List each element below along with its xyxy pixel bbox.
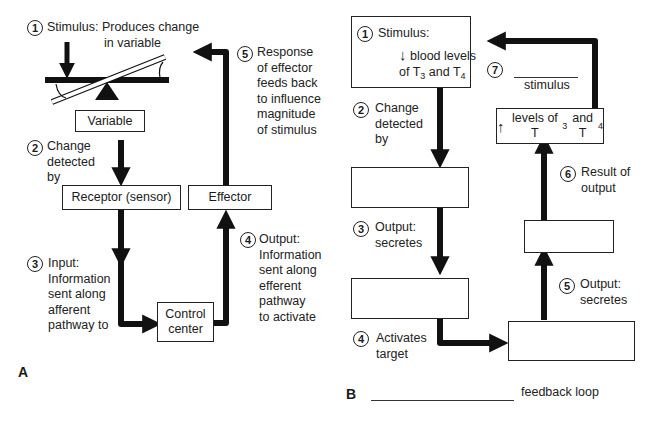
step-1-badge: 1 (27, 20, 43, 36)
step-b4-text: Activatestarget (376, 331, 427, 362)
step-b2-badge: 2 (353, 102, 369, 118)
feedback-type-blank[interactable] (371, 386, 514, 401)
step-b7-text: stimulus (524, 78, 570, 94)
blank-box-1[interactable] (351, 167, 469, 208)
stimulus-hormones: of T3 and T4 (399, 65, 466, 85)
step-b2-text: Changedetectedby (375, 101, 423, 148)
panel-b-label: B (346, 386, 356, 402)
step-b3-badge: 3 (353, 221, 369, 237)
step-b4-badge: 4 (353, 331, 369, 347)
step-4-text: Output:Informationsent alongefferentpath… (259, 232, 322, 325)
step-5-badge: 5 (237, 46, 253, 62)
variable-box: Variable (75, 110, 145, 132)
panel-a-label: A (18, 364, 28, 380)
stimulus-detail: ↓ blood levels (399, 47, 476, 65)
blank-box-3[interactable] (508, 321, 635, 361)
step-4-badge: 4 (240, 232, 256, 248)
step-b3-text: Output:secretes (375, 220, 422, 251)
step-1-text: Stimulus: Produces change (47, 20, 199, 36)
step-b5-badge: 5 (559, 278, 575, 294)
stimulus-title: Stimulus: (378, 26, 429, 42)
up-arrow-icon: ↑ (497, 119, 505, 134)
step-b5-text: Output:secretes (580, 277, 627, 308)
step-3-text: Input:Informationsent alongafferentpathw… (48, 256, 111, 334)
down-arrow-icon: ↓ (399, 46, 407, 63)
step-b6-badge: 6 (560, 166, 576, 182)
step-2-badge: 2 (27, 140, 43, 156)
result-box: ↑ levels of T3 and T4 (496, 108, 604, 144)
feedback-loop-label: feedback loop (521, 385, 599, 401)
step-5-text: Responseof effectorfeeds backto influenc… (257, 45, 321, 138)
step-2-text: Changedetectedby (47, 139, 95, 186)
control-center-box: Controlcenter (157, 302, 214, 342)
step-1-text-2: in variable (104, 36, 161, 52)
blank-box-2[interactable] (351, 278, 469, 319)
stimulus-box: 1 Stimulus: ↓ blood levels of T3 and T4 (351, 16, 471, 88)
blank-box-4[interactable] (524, 220, 614, 253)
effector-box: Effector (188, 185, 272, 210)
step-3-badge: 3 (27, 256, 43, 272)
step-b7-blank[interactable] (514, 63, 578, 78)
step-b1-badge: 1 (357, 26, 373, 42)
step-b7-badge: 7 (487, 62, 503, 78)
step-b6-text: Result ofoutput (581, 165, 630, 196)
receptor-box: Receptor (sensor) (62, 185, 181, 210)
